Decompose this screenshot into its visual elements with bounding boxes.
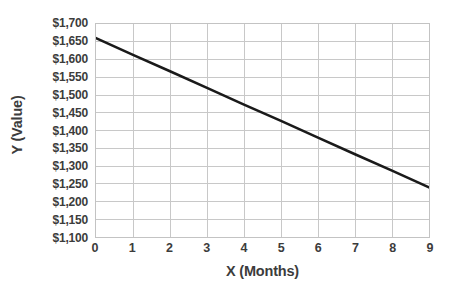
x-axis-tick-label: 2 — [166, 241, 173, 255]
y-axis-tick-label: $1,650 — [52, 34, 88, 48]
y-axis-tick-label: $1,250 — [52, 177, 88, 191]
x-axis-tick-label: 4 — [240, 241, 247, 255]
y-axis-tick-label: $1,550 — [52, 70, 88, 84]
y-axis-tick-label: $1,400 — [52, 124, 88, 138]
y-axis-tick-labels: $1,700$1,650$1,600$1,550$1,500$1,450$1,4… — [34, 23, 92, 238]
x-axis-title: X (Months) — [95, 263, 430, 279]
y-axis-title-label: Y (Value) — [9, 95, 25, 154]
y-axis-tick-label: $1,600 — [52, 52, 88, 66]
y-axis-tick-label: $1,350 — [52, 141, 88, 155]
x-axis-tick-label: 8 — [389, 241, 396, 255]
x-axis-tick-label: 0 — [92, 241, 99, 255]
x-axis-tick-label: 7 — [352, 241, 359, 255]
plot-area — [95, 23, 430, 238]
y-axis-title: Y (Value) — [0, 0, 34, 250]
x-axis-tick-label: 5 — [278, 241, 285, 255]
x-axis-tick-label: 6 — [315, 241, 322, 255]
y-axis-tick-label: $1,100 — [52, 231, 88, 245]
x-axis-tick-labels: 0123456789 — [95, 241, 430, 261]
y-axis-tick-label: $1,200 — [52, 195, 88, 209]
y-axis-tick-label: $1,150 — [52, 213, 88, 227]
data-series-layer — [96, 24, 429, 237]
y-axis-tick-label: $1,500 — [52, 88, 88, 102]
line-chart-figure: Y (Value) $1,700$1,650$1,600$1,550$1,500… — [0, 0, 451, 297]
x-axis-tick-label: 3 — [203, 241, 210, 255]
y-axis-tick-label: $1,450 — [52, 106, 88, 120]
y-axis-tick-label: $1,700 — [52, 16, 88, 30]
x-axis-tick-label: 1 — [129, 241, 136, 255]
x-axis-tick-label: 9 — [427, 241, 434, 255]
y-axis-tick-label: $1,300 — [52, 159, 88, 173]
